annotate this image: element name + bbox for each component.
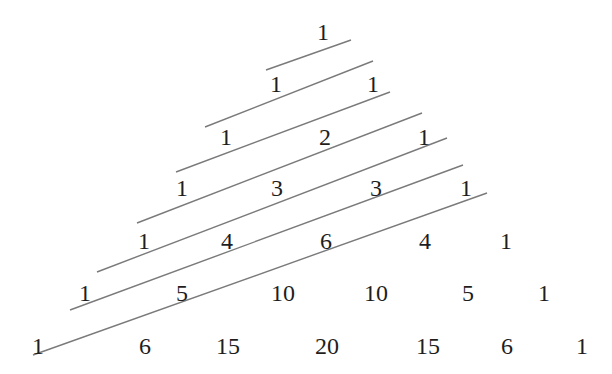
row-6-entry-0: 1 <box>32 334 44 358</box>
row-2-entry-0: 1 <box>220 125 232 149</box>
row-5-entry-1: 5 <box>176 281 188 305</box>
row-5-entry-3: 10 <box>364 281 388 305</box>
diagonal-line-7 <box>33 193 487 355</box>
row-5-entry-2: 10 <box>271 281 295 305</box>
row-6-entry-5: 6 <box>501 334 513 358</box>
diagonal-line-4 <box>137 113 422 223</box>
row-4-entry-3: 4 <box>419 229 431 253</box>
row-6-entry-2: 15 <box>216 334 240 358</box>
row-6-entry-6: 1 <box>576 334 588 358</box>
diagonal-line-2 <box>205 61 373 127</box>
row-4-entry-1: 4 <box>221 229 233 253</box>
row-1-entry-1: 1 <box>367 72 379 96</box>
row-0-entry-0: 1 <box>317 20 329 44</box>
row-6-entry-4: 15 <box>416 334 440 358</box>
row-4-entry-0: 1 <box>138 229 150 253</box>
row-2-entry-1: 2 <box>319 125 331 149</box>
row-3-entry-0: 1 <box>176 176 188 200</box>
diagonal-lines <box>0 0 612 374</box>
diagonal-line-6 <box>70 165 463 310</box>
row-3-entry-2: 3 <box>370 176 382 200</box>
pascal-triangle-diagram: 1 1 1 1 2 1 1 3 3 1 1 4 6 4 1 1 5 10 10 … <box>0 0 612 374</box>
row-6-entry-1: 6 <box>139 334 151 358</box>
row-1-entry-0: 1 <box>270 72 282 96</box>
row-3-entry-3: 1 <box>460 176 472 200</box>
row-5-entry-5: 1 <box>538 281 550 305</box>
row-2-entry-2: 1 <box>418 125 430 149</box>
row-6-entry-3: 20 <box>315 334 339 358</box>
row-4-entry-4: 1 <box>500 229 512 253</box>
row-5-entry-0: 1 <box>79 281 91 305</box>
row-5-entry-4: 5 <box>462 281 474 305</box>
diagonal-line-1 <box>266 40 351 70</box>
row-4-entry-2: 6 <box>320 229 332 253</box>
diagonal-line-3 <box>176 92 390 172</box>
row-3-entry-1: 3 <box>271 176 283 200</box>
